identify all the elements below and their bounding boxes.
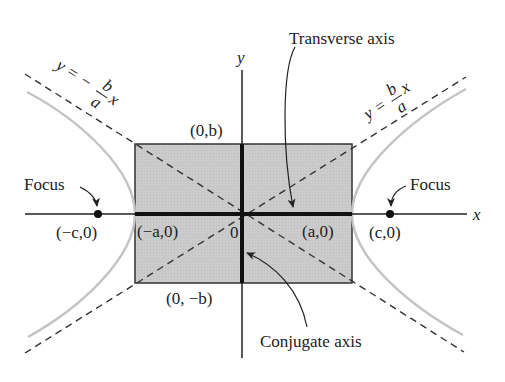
point-a-label: (a,0) xyxy=(302,222,334,241)
hyperbola-diagram: y x 0 Transverse axis Conjugate axis Foc… xyxy=(0,0,505,382)
point-b-label: (0,b) xyxy=(190,121,223,140)
transverse-axis-label: Transverse axis xyxy=(289,29,395,48)
x-axis-label: x xyxy=(472,205,481,224)
hyperbola-right-branch xyxy=(352,89,466,335)
y-axis-label: y xyxy=(235,48,245,67)
svg-text:a: a xyxy=(392,96,409,117)
point-neg-c-label: (−c,0) xyxy=(56,223,97,242)
focus-left-point xyxy=(94,210,102,218)
svg-text:y = −: y = − xyxy=(51,54,96,92)
focus-right-label: Focus xyxy=(410,175,451,194)
svg-text:a: a xyxy=(88,92,105,113)
origin-label: 0 xyxy=(230,223,239,242)
focus-left-label: Focus xyxy=(24,175,65,194)
focus-left-arrow xyxy=(80,187,97,206)
point-neg-a-label: (−a,0) xyxy=(137,222,178,241)
focus-right-arrow xyxy=(391,186,406,206)
point-neg-b-label: (0, −b) xyxy=(166,289,212,308)
point-c-label: (c,0) xyxy=(369,223,401,242)
svg-text:y =: y = xyxy=(358,95,390,125)
conjugate-axis-label: Conjugate axis xyxy=(260,332,362,351)
focus-right-point xyxy=(386,210,394,218)
